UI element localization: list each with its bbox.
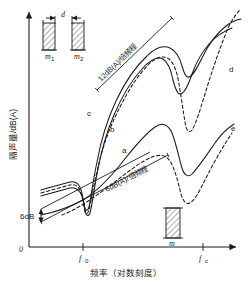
inset-wall-m — [166, 208, 180, 238]
curve-label-a: a — [122, 146, 127, 155]
inset-double-wall: d m 1 m 2 — [41, 10, 86, 62]
figure-container: 隔声量/dB(A) 0 f 0 f c 频率（对数刻度） 6dB 6dB(A)/… — [0, 0, 252, 282]
x-tick-fc-label: f — [199, 254, 203, 263]
slope-upper-label: 12dB(A)/倍频程 — [95, 41, 139, 84]
gap-measure-label: 6dB — [20, 212, 34, 221]
inset-gap-label: d — [61, 10, 66, 19]
curve-label-d: d — [229, 65, 233, 74]
inset-single-wall: m — [163, 208, 183, 248]
inset-wall-m2 — [72, 23, 84, 50]
y-axis-label: 隔声量/dB(A) — [8, 109, 18, 160]
inset-label-m1: m 1 — [45, 52, 55, 62]
slope-upper-label-group: 12dB(A)/倍频程 — [95, 41, 139, 84]
acoustic-insulation-chart: 隔声量/dB(A) 0 f 0 f c 频率（对数刻度） 6dB 6dB(A)/… — [0, 0, 252, 282]
slope-lower-label-group: 6dB(A)/倍频程 — [103, 163, 150, 194]
curve-d — [41, 10, 240, 213]
inset-wall-m1 — [43, 23, 55, 50]
y-axis-label-text: 隔声量/dB(A) — [8, 109, 18, 160]
x-axis-label: 频率（对数刻度） — [90, 268, 162, 278]
inset-m1-sub: 1 — [51, 56, 55, 62]
x-tick-f0-sub: 0 — [85, 258, 89, 264]
x-tick-f0-label: f — [79, 254, 83, 263]
inset-m2-sub: 2 — [80, 56, 84, 62]
inset-label-m2: m 2 — [74, 52, 84, 62]
curve-label-c: c — [87, 109, 91, 118]
curve-label-b: b — [110, 125, 115, 134]
origin-label: 0 — [19, 245, 23, 254]
x-tick-label-fc: f c — [199, 254, 208, 264]
slope-guide-upper-line — [97, 18, 172, 90]
x-tick-fc-sub: c — [205, 258, 208, 264]
x-tick-label-f0: f 0 — [79, 254, 89, 264]
curve-label-e: e — [231, 124, 236, 133]
slope-lower-label: 6dB(A)/倍频程 — [103, 163, 150, 194]
inset-m-label: m — [169, 239, 175, 248]
curve-e — [62, 133, 232, 215]
